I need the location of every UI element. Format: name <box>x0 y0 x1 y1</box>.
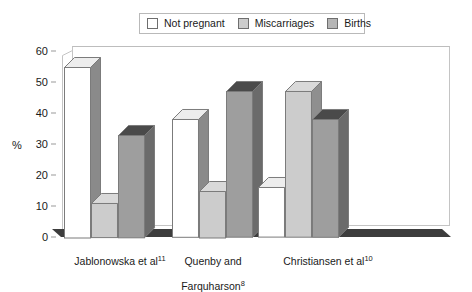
x-label-group-1-superscript: 8 <box>241 278 245 287</box>
bar-births-group-2 <box>312 109 350 239</box>
x-axis-labels: Jablonowska et al11 Quenby and Farquhars… <box>0 240 472 275</box>
x-label-group-2-superscript: 10 <box>364 253 372 262</box>
x-label-group-0-text: Jablonowska et al <box>74 255 157 267</box>
x-label-group-2: Christiansen et al10 <box>248 242 408 267</box>
bar-births-group-0 <box>118 125 156 239</box>
x-label-group-1-text: Quenby and <box>184 255 241 267</box>
x-label-group-1-text2: Farquharson <box>181 280 241 292</box>
x-label-group-2-text: Christiansen et al <box>283 255 364 267</box>
